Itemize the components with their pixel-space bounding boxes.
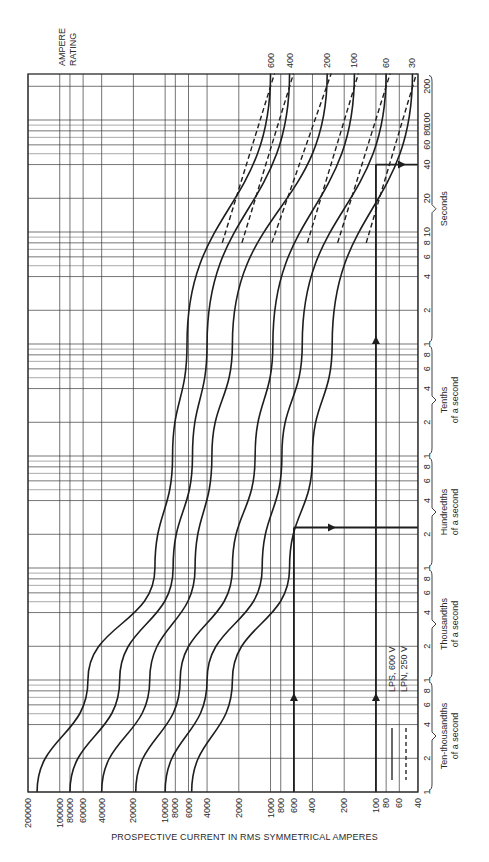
y-group-label: Thousandths bbox=[439, 597, 449, 650]
x-tick-label: 10000 bbox=[160, 798, 170, 823]
x-tick-label: 60 bbox=[394, 798, 404, 808]
legend-dashed-label: LPN, 250 V bbox=[399, 646, 409, 692]
y-tick-label: 6 bbox=[422, 366, 432, 371]
series-label-400: 400 bbox=[285, 53, 295, 68]
y-tick-label: 1 bbox=[422, 789, 432, 794]
x-tick-label: 200 bbox=[339, 798, 349, 813]
x-tick-label: 8000 bbox=[170, 798, 180, 818]
y-group-label: Tenths bbox=[439, 386, 449, 413]
y-tick-label: 6 bbox=[422, 590, 432, 595]
arrow-head-icon bbox=[398, 161, 406, 169]
series-label-30: 30 bbox=[407, 58, 417, 68]
y-group-label-sub: of a second bbox=[450, 601, 460, 648]
brace-icon bbox=[429, 570, 436, 678]
series-label-60: 60 bbox=[381, 58, 391, 68]
curve-400a-dashed bbox=[242, 74, 294, 243]
x-tick-label: 6000 bbox=[184, 798, 194, 818]
legend-solid-label: LPS, 600 V bbox=[387, 646, 397, 692]
y-tick-label: 4 bbox=[422, 386, 432, 391]
y-tick-label: 20 bbox=[422, 193, 432, 203]
arrow-head-icon bbox=[372, 336, 380, 344]
y-tick-label: 200 bbox=[422, 79, 432, 94]
x-tick-label: 20000 bbox=[128, 798, 138, 823]
time-current-chart: 2000001000008000060000400002000010000800… bbox=[0, 0, 489, 862]
arrow-head-icon bbox=[328, 523, 336, 531]
x-tick-label: 80000 bbox=[65, 798, 75, 823]
curve-30a-solid bbox=[192, 74, 413, 792]
curve-30a-dashed bbox=[366, 74, 416, 243]
y-tick-label: 2 bbox=[422, 644, 432, 649]
curve-60a-solid bbox=[165, 74, 386, 792]
series-label-100: 100 bbox=[349, 53, 359, 68]
y-tick-label: 6 bbox=[422, 478, 432, 483]
y-group-label-sub: of a second bbox=[450, 377, 460, 424]
fuse-curves bbox=[37, 74, 416, 792]
curve-100a-dashed bbox=[307, 74, 358, 243]
x-tick-label: 80 bbox=[381, 798, 391, 808]
arrow-head-icon bbox=[290, 693, 298, 701]
y-group-label: Ten-thousandths bbox=[439, 702, 449, 769]
x-tick-label: 40000 bbox=[97, 798, 107, 823]
y-tick-label: 6 bbox=[422, 254, 432, 259]
y-tick-label: 6 bbox=[422, 702, 432, 707]
ampere-rating-line1: AMPERE bbox=[57, 28, 67, 66]
y-tick-label: 2 bbox=[422, 308, 432, 313]
y-group-label-sub: of a second bbox=[450, 489, 460, 536]
ampere-rating-header: AMPERE RATING bbox=[57, 28, 78, 66]
y-tick-label: 4 bbox=[422, 274, 432, 279]
curve-60a-dashed bbox=[338, 74, 391, 243]
x-tick-label: 100000 bbox=[55, 798, 65, 828]
y-tick-label: 60 bbox=[422, 140, 432, 150]
x-axis-ticks: 2000001000008000060000400002000010000800… bbox=[23, 798, 423, 828]
y-group-label: Seconds bbox=[439, 191, 449, 227]
series-labels: 6004002001006030 bbox=[266, 53, 418, 68]
y-axis-ticks: 1246812468124681246812468102040608010020… bbox=[422, 76, 460, 795]
ampere-rating-line2: RATING bbox=[68, 33, 78, 66]
y-tick-label: 1 bbox=[422, 341, 432, 346]
x-tick-label: 4000 bbox=[202, 798, 212, 818]
x-tick-label: 800 bbox=[276, 798, 286, 813]
x-tick-label: 600 bbox=[289, 798, 299, 813]
y-tick-label: 4 bbox=[422, 498, 432, 503]
x-tick-label: 40 bbox=[413, 798, 423, 808]
brace-icon bbox=[429, 346, 436, 454]
y-tick-label: 1 bbox=[422, 453, 432, 458]
y-tick-label: 1 bbox=[422, 677, 432, 682]
x-axis-label: PROSPECTIVE CURRENT IN RMS SYMMETRICAL A… bbox=[0, 832, 489, 842]
x-tick-label: 2000 bbox=[234, 798, 244, 818]
arrow-head-icon bbox=[372, 693, 380, 701]
y-tick-label: 4 bbox=[422, 610, 432, 615]
y-tick-label: 1 bbox=[422, 565, 432, 570]
y-tick-label: 10 bbox=[422, 227, 432, 237]
y-tick-label: 4 bbox=[422, 722, 432, 727]
y-group-label-sub: of a second bbox=[450, 713, 460, 760]
series-label-200: 200 bbox=[322, 53, 332, 68]
y-tick-label: 8 bbox=[422, 688, 432, 693]
legend: LPS, 600 V LPN, 250 V bbox=[387, 646, 409, 780]
x-tick-label: 400 bbox=[307, 798, 317, 813]
y-tick-label: 2 bbox=[422, 420, 432, 425]
curve-600a-solid bbox=[37, 74, 270, 792]
y-tick-label: 8 bbox=[422, 464, 432, 469]
y-tick-label: 8 bbox=[422, 240, 432, 245]
x-tick-label: 1000 bbox=[266, 798, 276, 818]
curve-600a-dashed bbox=[222, 74, 274, 243]
x-tick-label: 60000 bbox=[78, 798, 88, 823]
y-group-label: Hundredths bbox=[439, 488, 449, 535]
y-tick-label: 8 bbox=[422, 576, 432, 581]
y-tick-label: 2 bbox=[422, 532, 432, 537]
x-tick-label: 200000 bbox=[23, 798, 33, 828]
brace-icon bbox=[429, 682, 436, 790]
series-label-600: 600 bbox=[266, 53, 276, 68]
y-tick-label: 40 bbox=[422, 160, 432, 170]
y-tick-label: 8 bbox=[422, 352, 432, 357]
y-tick-label: 100 bbox=[422, 112, 432, 127]
y-tick-label: 2 bbox=[422, 756, 432, 761]
brace-icon bbox=[429, 458, 436, 566]
x-tick-label: 100 bbox=[371, 798, 381, 813]
